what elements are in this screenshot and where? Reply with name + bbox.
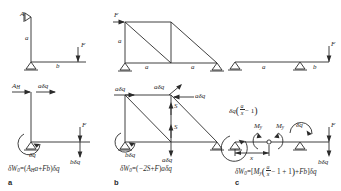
- label-span-c: a: [262, 64, 266, 71]
- label-force-displacement-c: bδq: [318, 159, 328, 166]
- a-bot-reaction-head: [25, 90, 32, 95]
- panel-a-graphics: [0, 0, 112, 191]
- b-bot-support-left: [120, 142, 130, 149]
- c-bot-support-left: [230, 142, 240, 149]
- label-disp-topright-b: aδq: [195, 93, 205, 100]
- b-top-diagonal-2: [171, 22, 217, 63]
- mechanics-figure: A a b F AH aδq δq F bδq δW0=(AHa+Fb)δq a: [0, 0, 341, 191]
- c-bot-moment-left-arc: [253, 133, 258, 149]
- b-top-diagonal-1: [125, 22, 171, 63]
- label-reaction-ah: AH: [12, 83, 20, 90]
- label-overhang-c: b: [313, 64, 317, 71]
- c-top-force-head: [327, 56, 332, 63]
- label-left-rotation-c: δq(ax− 1): [229, 103, 258, 116]
- a-bot-force-head: [78, 136, 83, 143]
- b-bot-force-s-upper-head: [169, 102, 174, 109]
- c-bot-dimension-head-right: [263, 151, 269, 155]
- label-bay2-b: a: [191, 64, 195, 71]
- label-disp-bottom-b: aδq: [162, 157, 172, 164]
- label-rotation-b: bδq: [125, 152, 135, 159]
- label-rotation-c: δq: [296, 122, 303, 129]
- panel-letter-b: b: [114, 178, 119, 187]
- c-bot-disp-head: [327, 151, 332, 158]
- label-disp-topleft-b: aδq: [115, 86, 125, 93]
- a-bot-disp-head: [50, 90, 57, 95]
- b-bot-diagonal-1: [125, 95, 171, 142]
- panel-b: F a a a aδq aδq aδq S S bδq aδq δW0=(−2S…: [112, 0, 228, 191]
- c-bot-force-head: [327, 136, 332, 143]
- label-bar-force-upper-b: S: [174, 103, 178, 110]
- c-bot-support-mid: [295, 142, 305, 149]
- c-top-support-left: [230, 62, 240, 69]
- label-pin-a: A: [20, 11, 24, 18]
- c-top-support-mid: [295, 62, 305, 69]
- b-bot-disp-mid-head: [176, 84, 182, 90]
- label-rotation-a: δq: [29, 152, 36, 159]
- label-force-displacement-a: bδq: [70, 159, 80, 166]
- panel-c: a b F δq(ax− 1) My My δq x F bδq δW0=[My…: [228, 0, 341, 191]
- label-bar-force-lower-b: S: [174, 124, 178, 131]
- c-bot-hinge: [267, 140, 271, 144]
- label-disp-topmid-b: aδq: [154, 84, 164, 91]
- label-force-f-a: F: [81, 42, 85, 49]
- label-height-b: a: [118, 38, 122, 45]
- label-force-f-c-bottom: F: [331, 122, 335, 129]
- label-member-a: a: [25, 35, 29, 42]
- b-bot-disp-left-head: [129, 93, 136, 98]
- panel-letter-a: a: [8, 178, 12, 187]
- label-dimension-x-c: x: [250, 155, 253, 162]
- panel-a: A a b F AH aδq δq F bδq δW0=(AHa+Fb)δq a: [0, 0, 112, 191]
- b-bot-force-s-lower-head: [169, 124, 174, 131]
- equation-panel-a: δW0=(AHa+Fb)δq: [8, 165, 60, 173]
- c-bot-dimension-head-left: [235, 151, 241, 155]
- equation-panel-b: δW0=(−2S+F)aδq: [120, 165, 172, 173]
- c-bot-moment-right-arc: [278, 133, 283, 149]
- a-bot-support-triangle: [26, 142, 36, 149]
- label-moment-right-c: My: [276, 123, 284, 130]
- c-bot-mid-rotation-head: [307, 131, 312, 136]
- b-top-support-right: [212, 63, 222, 70]
- b-top-force-head: [119, 20, 126, 25]
- label-force-f-a-bottom: F: [82, 122, 86, 129]
- label-bay1-b: a: [145, 64, 149, 71]
- b-top-support-left: [120, 63, 130, 70]
- label-member-b: b: [56, 63, 60, 70]
- label-top-displacement-a: aδq: [38, 83, 48, 90]
- b-bot-support-right: [212, 142, 222, 149]
- label-moment-left-c: My: [254, 123, 262, 130]
- a-top-support-triangle: [26, 62, 36, 69]
- equation-panel-c: δW0=[My(ax− 1 + 1)+Fb]δq: [235, 164, 316, 177]
- label-force-f-c: F: [331, 41, 335, 48]
- label-force-f-b: F: [114, 12, 118, 19]
- a-top-pin-triangle: [25, 13, 31, 21]
- a-top-force-head: [76, 56, 81, 63]
- panel-letter-c: c: [235, 178, 239, 187]
